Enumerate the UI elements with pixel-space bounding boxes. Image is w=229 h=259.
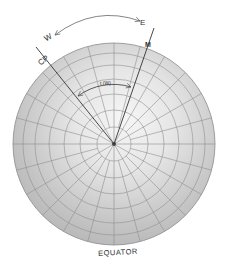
meridian-label: M xyxy=(145,41,151,48)
east-label: E xyxy=(140,18,145,27)
west-east-arrow xyxy=(55,15,140,35)
cp-label: CP xyxy=(36,53,50,67)
equator-label: EQUATOR xyxy=(98,247,138,258)
hour-angle-label: t (W) xyxy=(100,80,111,86)
diagram-canvas: CP M t (W) W E EQUATOR xyxy=(0,0,229,259)
west-label: W xyxy=(43,32,54,44)
